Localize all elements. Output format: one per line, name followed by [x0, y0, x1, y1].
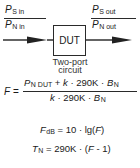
output-noise-power-subscript: N out — [99, 23, 116, 30]
output-signal-power-symbol: P — [92, 4, 99, 15]
output-noise-power: PN out — [92, 19, 116, 30]
output-signal-power: PS out — [92, 4, 116, 15]
noise-figure-rhs-suffix: ) — [101, 124, 104, 135]
noise-factor-numerator: PN DUT + k · 290K · BN — [24, 77, 119, 88]
pn-dut-subscript: N DUT — [31, 81, 52, 88]
block-caption: Two-port circuit — [44, 58, 96, 74]
bandwidth-symbol: B — [107, 77, 113, 88]
noise-temperature-rhs-suffix: - 1) — [94, 143, 111, 154]
noise-figure-rhs-prefix: = 10 · lg( — [55, 124, 95, 135]
dut-label: DUT — [59, 35, 80, 46]
output-arrow-icon — [86, 35, 134, 45]
noise-figure-equation: FdB = 10 · lg(F) — [40, 124, 104, 135]
input-noise-power-subscript: N in — [12, 23, 24, 30]
input-signal-power: PS in — [5, 4, 24, 15]
noise-factor-lhs: F = — [4, 86, 19, 97]
caption-line-2: circuit — [44, 66, 96, 74]
noise-factor-symbol: F — [4, 86, 10, 97]
temperature-term: · 290K · — [68, 77, 107, 88]
noise-temperature-rhs-prefix: = 290K · ( — [43, 143, 88, 154]
noise-figure-symbol: F — [40, 124, 46, 135]
input-noise-power-symbol: P — [5, 19, 12, 30]
equals-sign: = — [13, 86, 19, 97]
temperature-term-denominator: · 290K · — [55, 92, 94, 103]
input-noise-power: PN in — [5, 19, 25, 30]
input-arrow-icon — [3, 35, 54, 45]
noise-figure-subscript: dB — [46, 128, 55, 135]
dut-block: DUT — [53, 25, 86, 56]
bandwidth-subscript: N — [114, 81, 119, 88]
plus-sign: + — [52, 77, 63, 88]
input-signal-power-subscript: S in — [12, 8, 24, 15]
noise-temperature-symbol: T — [32, 143, 38, 154]
output-signal-power-subscript: S out — [99, 8, 115, 15]
bandwidth-subscript-denominator: N — [101, 96, 106, 103]
pn-dut-symbol: P — [24, 77, 30, 88]
output-noise-power-symbol: P — [92, 19, 99, 30]
input-signal-power-symbol: P — [5, 4, 12, 15]
noise-factor-denominator: k · 290K · BN — [50, 92, 106, 103]
bandwidth-symbol-denominator: B — [94, 92, 100, 103]
noise-temperature-equation: TN = 290K · (F - 1) — [32, 143, 111, 154]
